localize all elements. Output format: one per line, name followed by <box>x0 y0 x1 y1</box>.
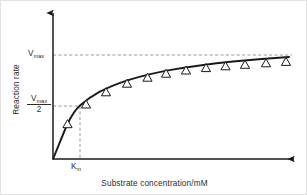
y-tick-label-vmax: Vmax <box>28 49 44 58</box>
michaelis-menten-chart: Reaction rate Substrate concentration/mM… <box>0 0 307 195</box>
vmax-subscript: max <box>33 53 44 59</box>
data-point <box>101 88 110 96</box>
km-subscript: m <box>76 166 81 172</box>
x-tick-label-km: Km <box>71 162 81 171</box>
data-point <box>281 57 290 65</box>
y-axis-title: Reaction rate <box>12 44 21 136</box>
data-point <box>63 120 72 128</box>
data-point <box>261 59 270 67</box>
y-tick-label-half-vmax: Vmax 2 <box>27 95 51 114</box>
half-vmax-denominator: 2 <box>27 105 51 114</box>
half-vmax-subscript: max <box>36 98 47 104</box>
half-vmax-numerator: Vmax <box>27 95 51 105</box>
x-axis-title: Substrate concentration/mM <box>1 179 307 188</box>
